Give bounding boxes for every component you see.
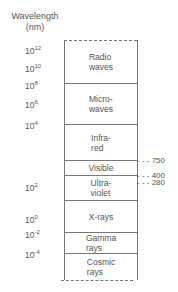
band-microwaves: Micro-waves [65,84,137,125]
band-visible: Visible [65,161,137,176]
axis-title-line1: Wavelength [6,11,64,22]
marker-750: - - - 750 [137,156,165,165]
tick-label: 108 [25,78,38,91]
band-cosmic: Cosmicrays [65,254,137,279]
marker-280: - - - 280 [137,178,165,187]
axis-title-line2: (nm) [6,22,64,33]
tick-label: 1012 [25,43,41,56]
spectrum-column: Radiowaves Micro-waves Infra-red Visible… [64,40,138,280]
tick-label: 102 [25,180,38,193]
bottom-dashed-edge [61,280,133,281]
tick-label: 106 [25,97,38,110]
tick-label: 104 [25,118,38,131]
axis-title: Wavelength (nm) [6,11,64,33]
band-gamma: Gammarays [65,233,137,254]
band-xrays: X-rays [65,201,137,233]
tick-label: 10-2 [25,227,40,240]
band-radio: Radiowaves [65,40,137,84]
band-infrared: Infra-red [65,125,137,161]
tick-label: 1010 [25,61,41,74]
tick-label: 100 [25,212,38,225]
tick-label: 10-4 [25,247,40,260]
band-ultraviolet: Ultra-violet [65,176,137,201]
